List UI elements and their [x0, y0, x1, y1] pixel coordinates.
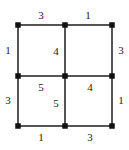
- graph-vertex-v21: [62, 123, 68, 129]
- graph-vertex-v20: [15, 123, 21, 129]
- edge-weight-label-e-bottom-left: 1: [34, 132, 48, 143]
- graph-vertex-v02: [109, 22, 115, 28]
- edge-weight-label-e-mid-horz-left: 5: [34, 82, 48, 93]
- edge-weight-label-e-mid-vert-upper: 4: [49, 46, 63, 57]
- graph-vertex-v10: [15, 73, 21, 79]
- graph-vertex-v22: [109, 123, 115, 129]
- edge-weight-label-e-mid-horz-right: 4: [83, 82, 97, 93]
- lattice-svg: [0, 0, 129, 150]
- graph-vertex-v12: [109, 73, 115, 79]
- edge-weight-label-e-bottom-right: 3: [83, 132, 97, 143]
- graph-vertex-v01: [62, 22, 68, 28]
- graph-vertex-v11: [62, 73, 68, 79]
- edge-weight-label-e-mid-vert-lower: 5: [49, 98, 63, 109]
- edge-weight-label-e-right-upper: 3: [114, 45, 128, 56]
- weighted-grid-graph-figure: 311435435113: [0, 0, 129, 150]
- edge-weight-label-e-left-upper: 1: [1, 45, 15, 56]
- graph-vertex-v00: [15, 22, 21, 28]
- edge-weight-label-e-right-lower: 1: [114, 95, 128, 106]
- edge-weight-label-e-top-left: 3: [34, 10, 48, 21]
- edge-weight-label-e-left-lower: 3: [1, 95, 15, 106]
- edge-weight-label-e-top-right: 1: [81, 10, 95, 21]
